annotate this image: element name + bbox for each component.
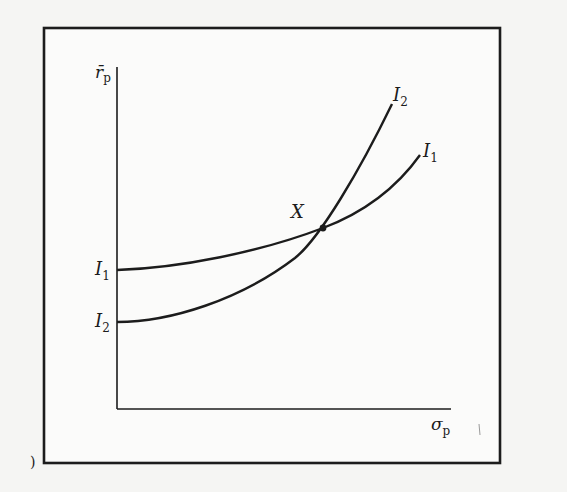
indifference-curves-diagram: r̄p σp I2 I1 X I1 I2 ) — [0, 0, 567, 492]
diagram-page: r̄p σp I2 I1 X I1 I2 ) — [0, 0, 567, 492]
intersection-point-x — [320, 225, 327, 232]
stray-scan-mark: ) — [30, 454, 35, 470]
intersection-label: X — [289, 201, 305, 222]
